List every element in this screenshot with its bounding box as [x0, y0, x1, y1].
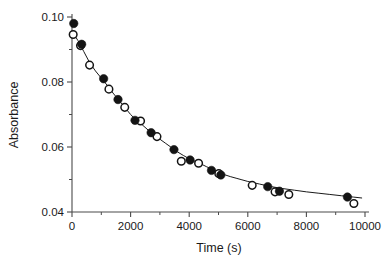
data-point-filled	[131, 116, 139, 124]
data-point-filled	[264, 182, 272, 190]
data-point-open	[69, 31, 77, 39]
chart-figure: 0.040.060.080.10 0200040006000800010000 …	[0, 0, 385, 262]
data-point-open	[86, 61, 94, 69]
x-tick-label: 10000	[349, 220, 381, 232]
data-point-filled	[114, 95, 122, 103]
data-point-open	[195, 159, 203, 167]
data-point-open	[177, 158, 185, 166]
x-tick-label: 6000	[235, 220, 261, 232]
x-axis-title: Time (s)	[196, 241, 241, 255]
data-point-filled	[343, 193, 351, 201]
x-tick-label: 0	[69, 220, 75, 232]
data-point-filled	[186, 156, 194, 164]
data-point-filled	[147, 129, 155, 137]
y-tick-label: 0.10	[42, 11, 64, 23]
x-tick-label: 8000	[294, 220, 320, 232]
data-point-filled	[217, 171, 225, 179]
x-tick-label: 4000	[176, 220, 202, 232]
data-point-open	[350, 200, 358, 208]
y-tick-label: 0.08	[42, 76, 64, 88]
data-point-filled	[70, 19, 78, 27]
absorbance-decay-plot: 0.040.060.080.10 0200040006000800010000 …	[0, 0, 385, 262]
y-tick-label: 0.06	[42, 141, 64, 153]
y-axis-title: Absorbance	[7, 82, 21, 149]
data-point-filled	[207, 166, 215, 174]
data-point-filled	[99, 75, 107, 83]
x-tick-label: 2000	[118, 220, 144, 232]
data-point-open	[105, 85, 113, 93]
data-point-filled	[170, 145, 178, 153]
data-point-filled	[275, 187, 283, 195]
data-point-open	[121, 104, 129, 112]
data-point-open	[285, 191, 293, 199]
data-point-open	[248, 182, 256, 190]
data-point-filled	[77, 40, 85, 48]
y-tick-label: 0.04	[42, 206, 65, 218]
